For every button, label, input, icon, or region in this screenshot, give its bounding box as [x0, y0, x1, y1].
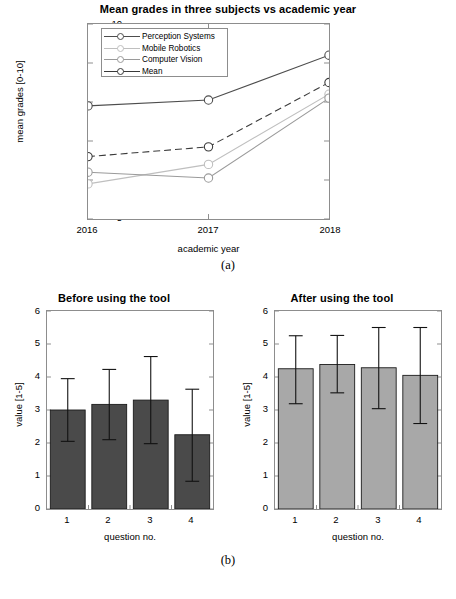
legend-item-perception-systems: Perception Systems: [102, 31, 227, 43]
chart-after-ytick-1: 1: [238, 469, 268, 480]
chart-a-y-axis-label: mean grades [0-10]: [14, 47, 25, 157]
chart-a-x-axis-label: academic year: [87, 243, 330, 254]
legend-label: Mobile Robotics: [142, 44, 200, 53]
chart-before-title: Before using the tool: [8, 292, 220, 304]
chart-after-xtick-4: 4: [404, 514, 434, 525]
chart-before-y-axis-label: value [1-5]: [13, 359, 24, 451]
chart-a-xtick-2018: 2018: [310, 224, 350, 235]
chart-before-plot-area: [46, 310, 214, 510]
panel-b-bar-charts: Before using the tool 6 5 4 3 2 1 0 1 2 …: [0, 288, 456, 599]
legend-label: Perception Systems: [142, 32, 215, 41]
legend-marker-icon: [102, 54, 142, 65]
chart-before-xtick-1: 1: [52, 514, 82, 525]
chart-after-ytick-0: 0: [238, 502, 268, 513]
legend-marker-icon: [102, 43, 142, 54]
caption-a: (a): [0, 258, 456, 273]
chart-before-xtick-4: 4: [176, 514, 206, 525]
caption-b: (b): [0, 553, 456, 568]
chart-before-ytick-6: 6: [10, 305, 40, 316]
chart-before-xtick-3: 3: [135, 514, 165, 525]
chart-a-xtick-2016: 2016: [67, 224, 107, 235]
chart-before-tool: Before using the tool 6 5 4 3 2 1 0 1 2 …: [8, 288, 220, 550]
chart-after-ytick-5: 5: [238, 337, 268, 348]
chart-before-xtick-2: 2: [93, 514, 123, 525]
legend-label: Mean: [142, 67, 162, 76]
chart-after-xtick-2: 2: [321, 514, 351, 525]
chart-after-title: After using the tool: [236, 292, 448, 304]
chart-after-svg: [275, 311, 441, 509]
legend-marker-icon: [102, 31, 142, 42]
chart-after-y-axis-label: value [1-5]: [241, 359, 252, 451]
figure-root: Mean grades in three subjects vs academi…: [0, 0, 456, 599]
legend-item-computer-vision: Computer Vision: [102, 54, 227, 66]
chart-a-title: Mean grades in three subjects vs academi…: [0, 3, 456, 15]
chart-after-x-axis-label: question no.: [274, 531, 442, 542]
chart-a-xtick-2017: 2017: [188, 224, 228, 235]
chart-before-x-axis-label: question no.: [46, 531, 214, 542]
chart-after-xtick-1: 1: [280, 514, 310, 525]
legend-item-mean: Mean: [102, 66, 227, 78]
legend-marker-icon: [102, 66, 142, 77]
chart-after-tool: After using the tool 6 5 4 3 2 1 0 1 2 3…: [236, 288, 448, 550]
chart-before-ytick-0: 0: [10, 502, 40, 513]
legend-item-mobile-robotics: Mobile Robotics: [102, 43, 227, 55]
chart-after-plot-area: [274, 310, 442, 510]
chart-after-xtick-3: 3: [363, 514, 393, 525]
chart-after-ytick-6: 6: [238, 305, 268, 316]
chart-before-ytick-1: 1: [10, 469, 40, 480]
chart-before-ytick-5: 5: [10, 337, 40, 348]
chart-a-legend: Perception Systems Mobile Robotics Compu…: [101, 28, 228, 77]
panel-a-line-chart: Mean grades in three subjects vs academi…: [0, 0, 456, 280]
legend-label: Computer Vision: [142, 55, 202, 64]
chart-before-svg: [47, 311, 213, 509]
